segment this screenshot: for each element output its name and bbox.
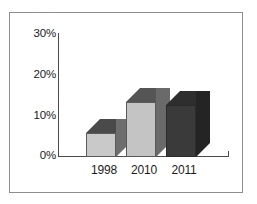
bar-2011 [166, 91, 210, 157]
bar-2010 [126, 88, 170, 157]
bar-1998 [86, 119, 130, 157]
bar-front-face-1998 [86, 133, 116, 157]
y-axis-line [58, 33, 59, 157]
x-tick-label-1998: 1998 [84, 163, 124, 177]
bar-front-face-2011 [166, 105, 196, 157]
y-tick-label-0: 0% [22, 149, 56, 161]
x-tick-label-2011: 2011 [164, 163, 204, 177]
y-tick-label-10: 10% [22, 109, 56, 121]
x-axis-end-tick [228, 151, 229, 157]
bar-side-face-2011 [196, 91, 210, 157]
y-tick-label-20: 20% [22, 68, 56, 80]
y-tick-label-30: 30% [22, 27, 56, 39]
bar-chart-figure: 30% 20% 10% 0% 1998 2010 2011 [0, 0, 257, 204]
bar-front-face-2010 [126, 102, 156, 157]
y-axis-tick-labels: 30% 20% 10% 0% [18, 0, 56, 204]
x-tick-label-2010: 2010 [124, 163, 164, 177]
